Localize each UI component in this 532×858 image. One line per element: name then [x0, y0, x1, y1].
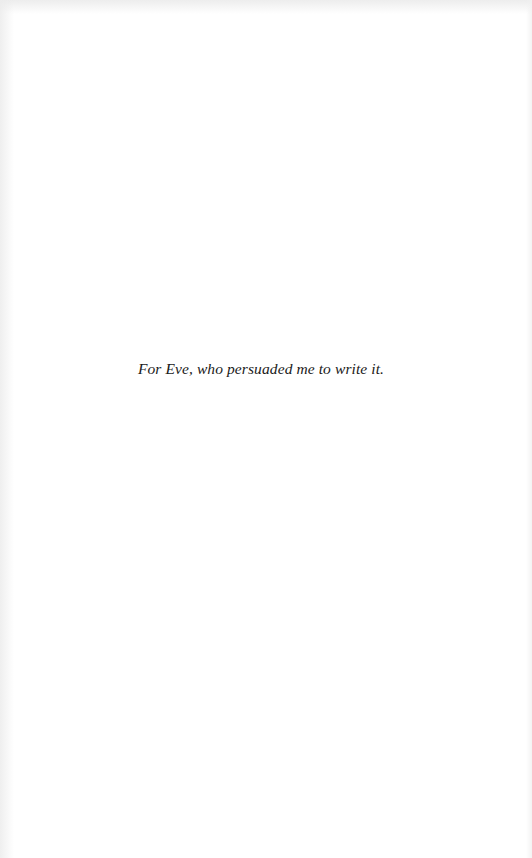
book-page: For Eve, who persuaded me to write it.	[0, 0, 532, 858]
dedication-text: For Eve, who persuaded me to write it.	[0, 359, 522, 379]
scan-shadow-right	[526, 0, 532, 858]
scan-shadow-top	[0, 0, 532, 14]
scan-shadow-left	[0, 0, 14, 858]
